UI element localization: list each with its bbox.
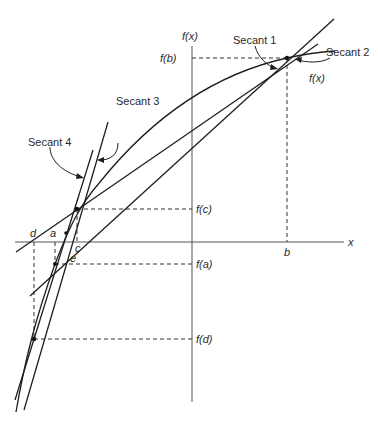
secant-4-line [15,150,93,400]
secant-1-label: Secant 1 [233,34,276,46]
f-c-label: f(c) [196,203,212,215]
f-a-label: f(a) [196,258,213,270]
point-e-label: e [70,252,76,264]
y-axis-label: f(x) [182,30,198,42]
secant-2-line [16,44,318,252]
point-d-label: d [30,227,37,239]
f-b-label: f(b) [160,52,177,64]
secant-3-label: Secant 3 [116,95,159,107]
points [32,56,289,341]
function-curve [16,51,335,412]
secant-method-diagram: f(x) x f(x) Secant 1 Secant 2 Secant 3 S… [0,0,378,430]
dashed-guides [34,58,287,339]
secant-2-label: Secant 2 [326,46,369,58]
curve-label: f(x) [309,72,325,84]
x-axis-label: x [347,236,354,248]
label-arrows [50,46,330,177]
secant-3-line [24,122,108,410]
point-a-label: a [50,227,56,239]
f-d-label: f(d) [196,333,213,345]
point-b-label: b [284,246,290,258]
arrowheads [76,57,302,179]
secant-4-label: Secant 4 [28,136,71,148]
